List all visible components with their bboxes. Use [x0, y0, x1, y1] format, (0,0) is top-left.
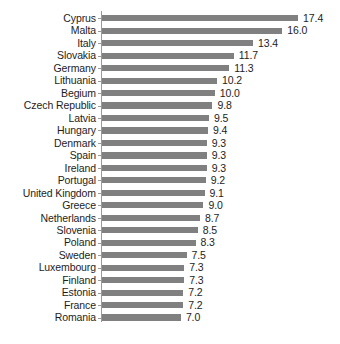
bar-row: Lithuania10.2: [0, 74, 340, 87]
bar-row: Begium10.0: [0, 87, 340, 100]
bar-value-label: 7.2: [188, 299, 202, 312]
axis-tick: [98, 93, 101, 94]
bar-value-label: 9.3: [212, 137, 226, 150]
bar-value-label: 7.5: [192, 249, 206, 262]
axis-tick: [98, 305, 101, 306]
bar: [102, 265, 184, 271]
category-label: Portugal: [0, 174, 96, 187]
axis-tick: [98, 68, 101, 69]
bar-row: Denmark9.3: [0, 137, 340, 150]
axis-tick: [98, 205, 101, 206]
axis-tick: [98, 318, 101, 319]
bar: [102, 165, 207, 171]
bar: [102, 53, 234, 59]
bar-row: Hungary9.4: [0, 124, 340, 137]
bar-row: Luxembourg7.3: [0, 261, 340, 274]
category-label: Estonia: [0, 286, 96, 299]
bar-row: Estonia7.2: [0, 286, 340, 299]
bar: [102, 302, 183, 308]
axis-tick: [98, 243, 101, 244]
bar: [102, 252, 187, 258]
bar-chart: Cyprus17.4Malta16.0Italy13.4Slovakia11.7…: [0, 0, 340, 344]
axis-tick: [98, 143, 101, 144]
category-label: Latvia: [0, 112, 96, 125]
category-label: Malta: [0, 24, 96, 37]
bar-value-label: 7.2: [188, 286, 202, 299]
category-label: Begium: [0, 87, 96, 100]
axis-tick: [98, 18, 101, 19]
category-label: Czech Republic: [0, 99, 96, 112]
bar-row: Finland7.3: [0, 274, 340, 287]
axis-tick: [98, 130, 101, 131]
bar-row: Slovenia8.5: [0, 224, 340, 237]
axis-tick: [98, 155, 101, 156]
category-label: Poland: [0, 236, 96, 249]
bar-value-label: 9.4: [213, 124, 227, 137]
bar-value-label: 7.3: [189, 261, 203, 274]
bar: [102, 78, 217, 84]
axis-tick: [98, 293, 101, 294]
bar: [102, 190, 205, 196]
bar-value-label: 8.7: [205, 212, 219, 225]
bar: [102, 202, 203, 208]
category-label: Ireland: [0, 162, 96, 175]
bar-row: Malta16.0: [0, 24, 340, 37]
axis-tick: [98, 118, 101, 119]
category-label: Cyprus: [0, 12, 96, 25]
bar: [102, 127, 208, 133]
bar-row: Portugal9.2: [0, 174, 340, 187]
bar-value-label: 13.4: [258, 37, 278, 50]
axis-tick: [98, 43, 101, 44]
category-label: Italy: [0, 37, 96, 50]
category-label: Netherlands: [0, 212, 96, 225]
bar-value-label: 9.5: [214, 112, 228, 125]
bar-value-label: 7.0: [186, 311, 200, 324]
axis-tick: [98, 31, 101, 32]
bar-value-label: 11.3: [234, 62, 253, 75]
axis-tick: [98, 81, 101, 82]
bar-value-label: 10.2: [222, 74, 242, 87]
bar: [102, 15, 298, 21]
axis-tick: [98, 56, 101, 57]
bar: [102, 90, 215, 96]
bar: [102, 215, 200, 221]
bar-row: Poland8.3: [0, 236, 340, 249]
bar: [102, 115, 209, 121]
axis-tick: [98, 268, 101, 269]
bar-value-label: 10.0: [220, 87, 240, 100]
category-label: Romania: [0, 311, 96, 324]
bar: [102, 240, 196, 246]
bar-row: Slovakia11.7: [0, 49, 340, 62]
bar: [102, 152, 207, 158]
bar-value-label: 9.1: [210, 187, 224, 200]
axis-tick: [98, 255, 101, 256]
axis-tick: [98, 180, 101, 181]
bar-row: Netherlands8.7: [0, 212, 340, 225]
bar-row: Sweden7.5: [0, 249, 340, 262]
category-label: Slovakia: [0, 49, 96, 62]
bar-value-label: 9.0: [208, 199, 222, 212]
category-label: United Kingdom: [0, 187, 96, 200]
axis-tick: [98, 106, 101, 107]
bar: [102, 102, 212, 108]
bar-row: United Kingdom9.1: [0, 187, 340, 200]
axis-tick: [98, 193, 101, 194]
category-label: Luxembourg: [0, 261, 96, 274]
category-label: Spain: [0, 149, 96, 162]
axis-tick: [98, 218, 101, 219]
bar-row: Cyprus17.4: [0, 12, 340, 25]
bar-value-label: 9.3: [212, 149, 226, 162]
category-label: Finland: [0, 274, 96, 287]
bar: [102, 277, 184, 283]
bar-row: Ireland9.3: [0, 162, 340, 175]
bar-row: Spain9.3: [0, 149, 340, 162]
bar: [102, 40, 253, 46]
bar: [102, 177, 206, 183]
category-label: Greece: [0, 199, 96, 212]
bar-value-label: 9.2: [211, 174, 225, 187]
axis-tick: [98, 230, 101, 231]
bar-value-label: 16.0: [287, 24, 307, 37]
bar: [102, 140, 207, 146]
bar-row: Italy13.4: [0, 37, 340, 50]
axis-tick: [98, 280, 101, 281]
